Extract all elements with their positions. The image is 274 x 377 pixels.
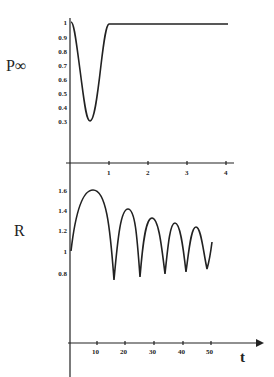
svg-text:40: 40 xyxy=(178,348,186,356)
svg-text:0.4: 0.4 xyxy=(58,104,67,112)
svg-text:20: 20 xyxy=(120,348,128,356)
bottom-ylabel: R xyxy=(14,222,25,239)
svg-text:1.2: 1.2 xyxy=(58,227,67,235)
svg-text:1.6: 1.6 xyxy=(58,187,67,195)
figure: P∞ 1 2 3 4 1 0.9 0.8 0.7 0.6 0.5 0.4 0.3… xyxy=(0,0,274,377)
bottom-xlabel: t xyxy=(240,349,245,365)
svg-text:0.8: 0.8 xyxy=(58,270,67,278)
svg-text:1: 1 xyxy=(64,248,68,256)
svg-text:1: 1 xyxy=(64,19,68,27)
svg-text:0.9: 0.9 xyxy=(58,34,67,42)
top-y-ticks: 1 0.9 0.8 0.7 0.6 0.5 0.4 0.3 xyxy=(58,19,67,126)
svg-text:0.3: 0.3 xyxy=(58,118,67,126)
svg-text:0.7: 0.7 xyxy=(58,62,67,70)
svg-text:10: 10 xyxy=(92,348,100,356)
svg-text:4: 4 xyxy=(224,169,228,177)
svg-text:0.6: 0.6 xyxy=(58,76,67,84)
svg-text:1: 1 xyxy=(107,169,111,177)
p-infinity-curve xyxy=(71,22,228,121)
svg-text:30: 30 xyxy=(149,348,157,356)
svg-text:0.8: 0.8 xyxy=(58,48,67,56)
svg-text:1.4: 1.4 xyxy=(58,207,67,215)
svg-text:50: 50 xyxy=(206,348,214,356)
svg-text:0.5: 0.5 xyxy=(58,90,67,98)
svg-text:3: 3 xyxy=(185,169,189,177)
bottom-y-ticks: 1.6 1.4 1.2 1 0.8 xyxy=(58,187,67,278)
svg-text:2: 2 xyxy=(146,169,150,177)
x-axis-arrow-icon xyxy=(256,339,264,347)
top-ylabel: P∞ xyxy=(6,57,26,74)
r-curve xyxy=(71,190,212,280)
